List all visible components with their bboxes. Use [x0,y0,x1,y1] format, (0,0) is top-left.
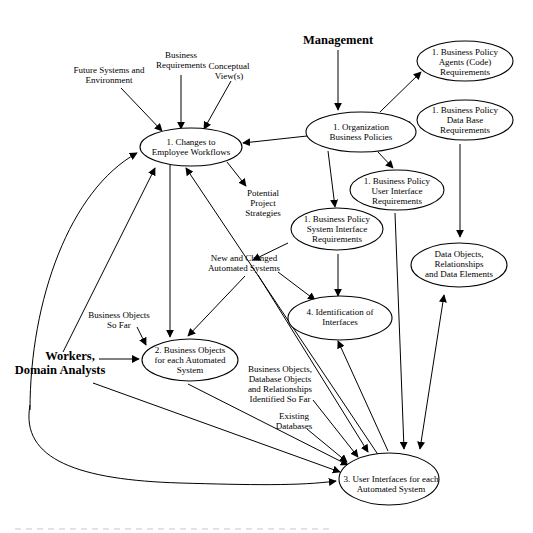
svg-text:User Interface: User Interface [371,186,422,196]
svg-text:Data Objects,: Data Objects, [435,249,484,259]
svg-text:Requirements: Requirements [156,60,206,70]
node-agents-code: 1. Business Policy Agents (Code) Require… [417,41,513,81]
svg-text:Database Objects: Database Objects [249,374,312,384]
node-business-objects: 2. Business Objects for each Automated S… [142,339,238,381]
svg-text:Strategies: Strategies [245,208,281,218]
edge-ui-req-to-user-interfaces [395,213,404,449]
actor-workers-line1: Workers, [45,349,95,363]
svg-text:System: System [177,365,204,375]
label-conceptual-views: Conceptual View(s) [209,61,250,81]
svg-text:2. Business Objects: 2. Business Objects [155,345,226,355]
node-ui-req: 1. Business Policy User Interface Requir… [350,170,444,210]
node-database-req: 1. Business Policy Data Base Requirement… [417,100,513,140]
svg-text:Requirements: Requirements [372,196,422,206]
edge-org-to-agents [380,72,421,112]
workflow-diagram: Management Workers, Domain Analysts Futu… [0,0,533,533]
svg-text:System Interface: System Interface [307,224,368,234]
svg-text:Requirements: Requirements [312,234,362,244]
svg-text:for each Automated: for each Automated [155,355,226,365]
svg-text:Business Objects,: Business Objects, [248,364,312,374]
actor-workers-line2: Domain Analysts [15,363,106,377]
edge-bo-db-objects-to-user-interfaces [313,400,358,457]
svg-text:Future Systems and: Future Systems and [74,65,145,75]
edge-user-interfaces-to-identification [338,341,388,451]
svg-text:Interfaces: Interfaces [322,317,358,327]
svg-text:Business Policies: Business Policies [330,132,393,142]
svg-text:Databases: Databases [276,421,313,431]
svg-text:Project: Project [250,198,276,208]
label-existing-databases: Existing Databases [276,411,313,431]
svg-text:So Far: So Far [107,320,131,330]
svg-text:Identified So Far: Identified So Far [250,394,311,404]
node-changes-workflows: 1. Changes to Employee Workflows [140,128,242,166]
svg-text:4. Identification of: 4. Identification of [306,307,373,317]
edge-org-to-changes [243,136,307,143]
edge-future-systems-to-changes [121,88,162,131]
svg-text:View(s): View(s) [215,71,243,81]
svg-text:1. Changes to: 1. Changes to [166,137,216,147]
svg-text:New and Changed: New and Changed [211,253,278,263]
svg-text:Conceptual: Conceptual [209,61,250,71]
svg-text:1. Business Policy: 1. Business Policy [432,47,499,57]
svg-text:Requirements: Requirements [440,67,490,77]
edge-conceptual-views-to-changes [204,81,231,129]
edge-new-changed-to-business-objects [188,276,245,336]
label-business-objects-so-far: Business Objects So Far [88,310,150,330]
node-data-objects: Data Objects, Relationships and Data Ele… [411,243,507,287]
label-future-systems: Future Systems and Environment [74,65,145,85]
edge-new-changed-to-identification [278,272,315,300]
node-identification-interfaces: 4. Identification of Interfaces [288,296,392,340]
svg-text:Employee Workflows: Employee Workflows [152,147,231,157]
svg-text:Requirements: Requirements [440,125,490,135]
svg-text:1. Business Policy: 1. Business Policy [432,105,499,115]
label-bo-db-objects: Business Objects, Database Objects and R… [248,364,313,404]
node-user-interfaces: 3. User Interfaces for each Automated Sy… [339,453,439,505]
svg-text:1. Business Policy: 1. Business Policy [304,214,371,224]
svg-text:Automated Systems: Automated Systems [208,263,281,273]
svg-text:Business: Business [165,50,198,60]
svg-text:Agents (Code): Agents (Code) [439,57,492,67]
svg-text:and Data Elements: and Data Elements [425,269,493,279]
label-new-changed-systems: New and Changed Automated Systems [208,253,281,273]
svg-text:1. Organization: 1. Organization [333,122,389,132]
edge-bo-so-far-to-business-objects [137,327,146,345]
node-system-if-req: 1. Business Policy System Interface Requ… [291,208,383,250]
svg-text:Data Base: Data Base [447,115,484,125]
edge-changes-to-strategies [227,162,246,186]
edge-data-objects-to-user-interfaces [420,295,444,449]
svg-text:Existing: Existing [279,411,310,421]
node-org-policies: 1. Organization Business Policies [306,112,416,152]
svg-text:Potential: Potential [247,188,279,198]
svg-text:1. Business Policy: 1. Business Policy [364,176,431,186]
label-potential-strategies: Potential Project Strategies [245,188,281,218]
edge-org-to-system-if-req [328,151,335,207]
svg-text:3. User Interfaces for each: 3. User Interfaces for each [343,474,439,484]
svg-text:Automated System: Automated System [357,484,426,494]
svg-text:Relationships: Relationships [435,259,484,269]
actor-management: Management [303,33,374,47]
svg-text:and Relationships: and Relationships [248,384,313,394]
svg-text:Environment: Environment [86,75,133,85]
label-business-requirements: Business Requirements [156,50,206,70]
edge-org-to-ui-req [378,152,393,168]
edge-existing-db-to-user-interfaces [307,429,347,462]
svg-text:Business Objects: Business Objects [88,310,150,320]
